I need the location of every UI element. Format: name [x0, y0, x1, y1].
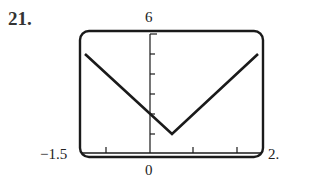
- y-max-label: 6: [145, 9, 153, 26]
- function-line: [85, 54, 258, 134]
- origin-label: 0: [145, 162, 153, 179]
- x-ticks: [106, 147, 237, 153]
- viewing-window-frame: [80, 31, 263, 157]
- x-max-label: 2.: [268, 146, 279, 163]
- x-min-label: −1.5: [40, 146, 67, 163]
